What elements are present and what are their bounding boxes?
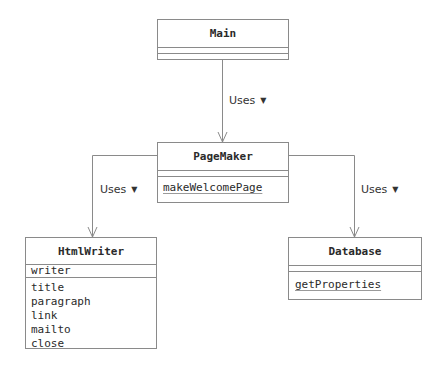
- class-name: Database: [289, 238, 421, 266]
- class-name: HtmlWriter: [26, 238, 156, 265]
- operation-makewelcomepage[interactable]: makeWelcomePage: [163, 181, 283, 195]
- operation-paragraph[interactable]: paragraph: [31, 295, 151, 309]
- class-operations: makeWelcomePage: [158, 177, 288, 195]
- class-operations: [158, 54, 288, 59]
- class-attributes: writer: [26, 265, 156, 278]
- class-main[interactable]: Main: [157, 19, 289, 60]
- direction-triangle-icon: ▼: [392, 185, 398, 194]
- edge-pagemaker-htmlwriter: [93, 156, 158, 238]
- edge-pagemaker-database: [288, 156, 355, 238]
- relation-label-text: Uses: [229, 94, 255, 107]
- class-name: PageMaker: [158, 143, 288, 171]
- attribute-writer[interactable]: writer: [31, 265, 151, 277]
- class-pagemaker[interactable]: PageMaker makeWelcomePage: [157, 142, 289, 203]
- class-operations: title paragraph link mailto close: [26, 278, 156, 354]
- class-operations: getProperties: [289, 272, 421, 292]
- class-database[interactable]: Database getProperties: [288, 237, 422, 300]
- operation-close[interactable]: close: [31, 337, 151, 351]
- uml-diagram-canvas: Main Uses▼ PageMaker makeWelcomePage Use…: [0, 0, 445, 365]
- operation-title[interactable]: title: [31, 281, 151, 295]
- relation-label-text: Uses: [100, 183, 126, 196]
- operation-getproperties[interactable]: getProperties: [295, 278, 415, 292]
- class-name: Main: [158, 20, 288, 48]
- direction-triangle-icon: ▼: [260, 96, 266, 105]
- operation-mailto[interactable]: mailto: [31, 323, 151, 337]
- class-htmlwriter[interactable]: HtmlWriter writer title paragraph link m…: [25, 237, 157, 349]
- direction-triangle-icon: ▼: [131, 185, 137, 194]
- relation-label-text: Uses: [361, 183, 387, 196]
- relation-label-pagemaker-database: Uses▼: [361, 183, 398, 196]
- relation-label-main-pagemaker: Uses▼: [229, 94, 266, 107]
- relation-label-pagemaker-htmlwriter: Uses▼: [100, 183, 137, 196]
- operation-link[interactable]: link: [31, 309, 151, 323]
